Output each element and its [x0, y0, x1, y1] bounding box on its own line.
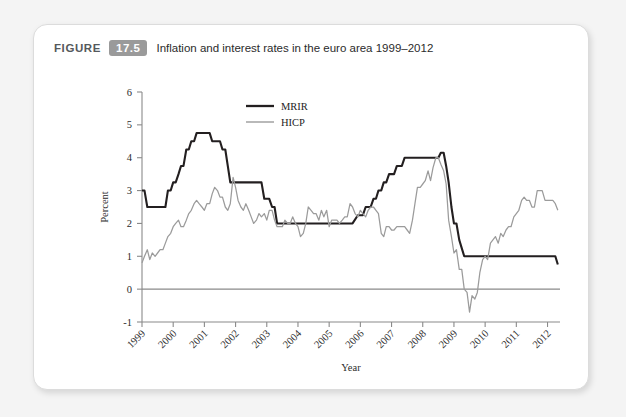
x-axis-tick-label: 2010 [468, 328, 491, 351]
x-axis-tick-label: 2007 [374, 328, 397, 351]
x-axis-tick-label: 2004 [281, 327, 304, 350]
chart-series-group [142, 133, 558, 312]
y-axis-tick-label: 0 [127, 284, 132, 295]
y-axis-tick-label: 6 [127, 87, 132, 98]
x-axis-tick-label: 2008 [406, 328, 429, 351]
figure-title: Inflation and interest rates in the euro… [156, 42, 433, 54]
series-line-mrir [142, 133, 558, 264]
figure-card: FIGURE 17.5 Inflation and interest rates… [33, 24, 589, 390]
y-axis-tick-label: -1 [123, 317, 132, 328]
y-axis-tick-label: 2 [127, 218, 132, 229]
figure-number-badge: 17.5 [109, 40, 147, 56]
line-chart: -10123456 199920002001200220032004200520… [74, 76, 574, 374]
x-axis-tick-label: 1999 [125, 328, 148, 351]
legend-label-mrir: MRIR [281, 101, 308, 112]
figure-label: FIGURE [54, 42, 101, 54]
screenshot-root: FIGURE 17.5 Inflation and interest rates… [0, 0, 626, 417]
x-axis-tick-label: 2001 [187, 328, 210, 351]
x-axis-tick-label: 2005 [312, 328, 335, 351]
y-axis-tick-label: 1 [127, 251, 132, 262]
figure-caption: FIGURE 17.5 Inflation and interest rates… [54, 40, 433, 56]
chart-legend: MRIRHICP [246, 101, 308, 128]
x-axis-tick-label: 2009 [437, 328, 460, 351]
x-axis-tick-labels: 1999200020012002200320042005200620072008… [125, 327, 553, 350]
x-axis-tick-label: 2012 [530, 328, 553, 351]
x-axis-tick-label: 2000 [156, 328, 179, 351]
x-axis-tick-label: 2011 [499, 328, 521, 350]
legend-label-hicp: HICP [281, 117, 305, 128]
x-axis-title: Year [341, 362, 361, 373]
y-axis-tick-label: 5 [127, 119, 132, 130]
y-axis-title: Percent [99, 191, 110, 223]
y-axis-tick-label: 3 [127, 185, 132, 196]
chart-plot-panel: -10123456 199920002001200220032004200520… [74, 76, 574, 374]
x-axis-tick-label: 2006 [343, 328, 366, 351]
x-axis-tick-label: 2002 [218, 328, 241, 351]
x-axis-tick-label: 2003 [250, 328, 273, 351]
y-axis-tick-labels: -10123456 [123, 87, 133, 328]
y-axis-tick-label: 4 [127, 152, 133, 163]
